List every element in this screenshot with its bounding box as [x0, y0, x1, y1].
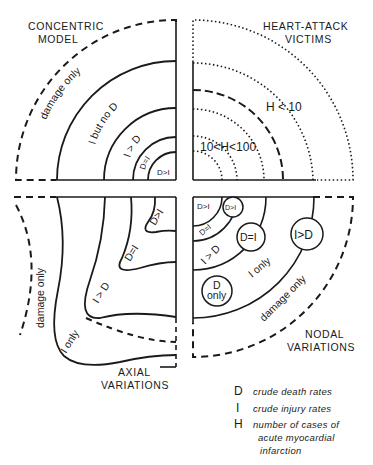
legend-text-d: crude death rates	[253, 386, 332, 397]
axial-d-gt-i: D>I	[147, 207, 166, 227]
region-10-lt-h-lt-100: 10<H<100	[200, 140, 256, 154]
axial-variations-quadrant: damage only I only I > D D=I D>I AXIAL V…	[14, 197, 176, 391]
nodal-d-gt-i-circle: D>I	[225, 204, 236, 211]
heart-attack-title-2: VICTIMS	[285, 33, 332, 45]
region-damage-only: damage only	[37, 64, 83, 121]
legend-symbol-h: H	[234, 417, 243, 431]
axial-damage-only: damage only	[34, 267, 46, 328]
axial-title-2: VARIATIONS	[101, 379, 169, 391]
legend: D crude death rates I crude injury rates…	[234, 384, 340, 456]
diagram-canvas: CONCENTRIC MODEL damage only I but no D …	[0, 0, 373, 465]
region-d-gt-i: D>I	[157, 168, 170, 177]
legend-text-h-3: infarction	[260, 445, 302, 456]
nodal-title-2: VARIATIONS	[287, 341, 355, 353]
axial-i-only: I only	[58, 327, 82, 355]
nodal-i-only: I only	[246, 254, 274, 280]
axial-title-1: AXIAL	[118, 366, 151, 378]
legend-text-i: crude injury rates	[253, 403, 331, 414]
nodal-i-gt-d-circle: I>D	[294, 228, 313, 242]
legend-text-h-2: acute myocardial	[258, 432, 335, 443]
nodal-title-1: NODAL	[305, 328, 344, 340]
nodal-i-gt-d-band: I > D	[198, 242, 223, 267]
nodal-d-only-2: only	[207, 289, 227, 301]
region-i-but-no-d: I but no D	[85, 99, 120, 145]
svg-text:I but no D: I but no D	[85, 99, 120, 145]
axial-d-eq-i: D=I	[122, 243, 141, 263]
heart-attack-title-1: HEART-ATTACK	[263, 20, 348, 32]
legend-text-h-1: number of cases of	[253, 419, 340, 430]
svg-text:I > D: I > D	[121, 132, 144, 159]
concentric-model-quadrant: CONCENTRIC MODEL damage only I but no D …	[16, 20, 176, 180]
region-i-gt-d: I > D	[121, 132, 144, 159]
nodal-variations-quadrant: D>I D>I D=I I > D D=I I>D I only D only …	[193, 197, 355, 357]
region-h-lt-10: H < 10	[266, 100, 302, 114]
nodal-d-eq-i-circle: D=I	[240, 231, 257, 243]
nodal-d-gt-i-band: D>I	[197, 202, 210, 211]
heart-attack-quadrant: HEART-ATTACK VICTIMS H < 10 10<H<100	[193, 20, 353, 180]
concentric-title-2: MODEL	[38, 33, 78, 45]
axial-i-gt-d: I > D	[90, 279, 112, 305]
legend-symbol-i: I	[236, 401, 239, 415]
concentric-title-1: CONCENTRIC	[28, 20, 104, 32]
svg-text:damage only: damage only	[37, 64, 83, 121]
legend-symbol-d: D	[234, 384, 243, 398]
